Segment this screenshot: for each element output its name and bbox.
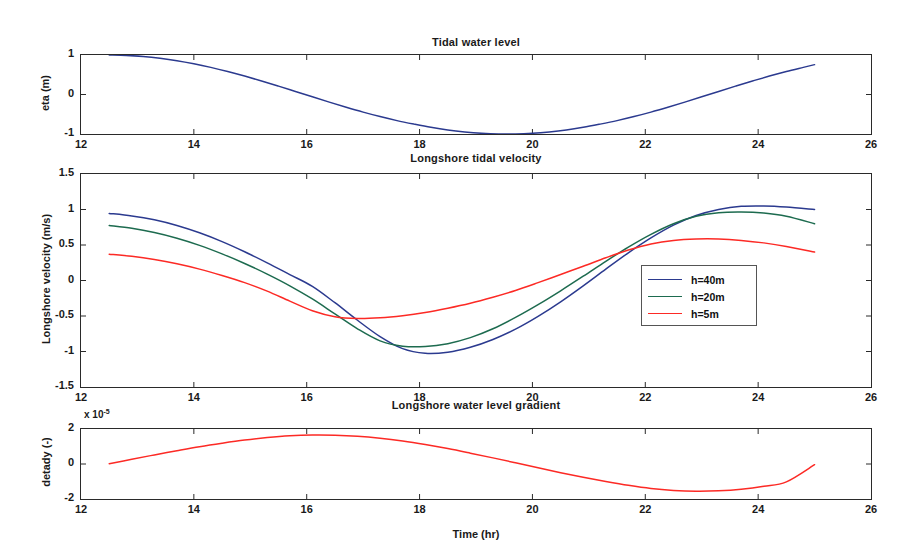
y-tick-label: 0 [30,456,74,468]
subplot-3-exponent-label: x 10-5 [84,408,110,420]
y-tick-label: 1.5 [30,166,74,178]
y-tick-label: 1 [30,202,74,214]
x-tick-label: 12 [61,503,101,515]
y-tick-label: -0.5 [30,308,74,320]
subplot-3-axes [80,428,872,500]
y-tick-label: -1.5 [30,379,74,391]
exponent-mantissa: x 10 [84,409,103,420]
y-tick-label: 1 [30,47,74,59]
legend-item-h5[interactable]: h=5m [648,305,748,322]
x-tick-label: 20 [512,138,552,150]
legend-swatch-h5 [648,313,682,314]
x-tick-label: 16 [287,503,327,515]
x-tick-label: 14 [174,138,214,150]
legend-label-h5: h=5m [691,308,719,320]
subplot-3-title: Longshore water level gradient [80,399,872,411]
legend-swatch-h20 [648,296,682,297]
subplot-1-title: Tidal water level [80,36,872,48]
y-tick-label: 2 [30,421,74,433]
x-tick-label: 24 [738,138,778,150]
subplot-2-title: Longshore tidal velocity [80,152,872,164]
x-tick-label: 18 [400,138,440,150]
data-series-eta [109,55,814,134]
x-tick-label: 20 [512,503,552,515]
x-tick-label: 22 [625,503,665,515]
x-tick-label: 26 [851,503,891,515]
subplot-1-axes [80,54,872,135]
x-tick-label: 18 [400,503,440,515]
x-tick-label: 24 [738,503,778,515]
exponent-power: -5 [103,408,109,415]
y-tick-label: 0 [30,273,74,285]
y-tick-label: 0.5 [30,237,74,249]
matlab-figure: Tidal water level eta (m) 12141618202224… [0,0,906,554]
legend-item-h20[interactable]: h=20m [648,288,748,305]
legend-swatch-h40 [648,279,682,280]
y-tick-label: 0 [30,87,74,99]
legend-item-h40[interactable]: h=40m [648,271,748,288]
x-tick-label: 16 [287,138,327,150]
x-tick-label: 14 [174,503,214,515]
x-tick-label: 26 [851,138,891,150]
legend[interactable]: h=40m h=20m h=5m [641,265,757,326]
data-series-detady [109,435,814,491]
legend-label-h40: h=40m [691,274,725,286]
y-tick-label: -2 [30,491,74,503]
x-tick-label: 22 [625,138,665,150]
legend-label-h20: h=20m [691,291,725,303]
x-tick-label: 12 [61,138,101,150]
y-tick-label: -1 [30,126,74,138]
figure-xlabel: Time (hr) [80,528,872,540]
y-tick-label: -1 [30,344,74,356]
